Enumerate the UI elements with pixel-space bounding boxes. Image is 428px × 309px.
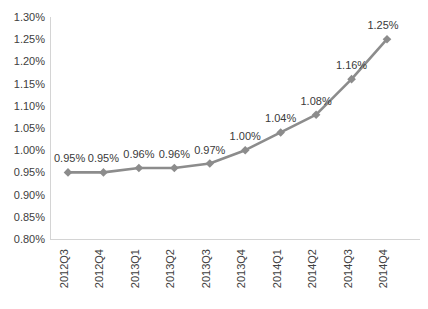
- y-axis-tick-label: 1.30%: [14, 11, 45, 23]
- x-axis-tick-label: 2014Q4: [377, 249, 389, 288]
- x-axis-tick-label: 2013Q1: [129, 249, 141, 288]
- data-point-label: 1.25%: [367, 19, 398, 31]
- data-point-label: 0.96%: [159, 148, 190, 160]
- x-axis-tick-label: 2013Q3: [200, 249, 212, 288]
- y-axis-tick-label: 1.10%: [14, 100, 45, 112]
- y-axis-tick-label: 1.15%: [14, 78, 45, 90]
- x-axis-tick-label: 2012Q3: [58, 249, 70, 288]
- y-axis-tick-label: 0.90%: [14, 189, 45, 201]
- x-axis-tick-label: 2013Q2: [164, 249, 176, 288]
- data-point-label: 0.96%: [123, 148, 154, 160]
- x-axis-tick-label: 2013Q4: [235, 249, 247, 288]
- data-point-label: 1.04%: [265, 112, 296, 124]
- y-axis-tick-label: 1.00%: [14, 144, 45, 156]
- line-chart: 1.30%1.25%1.20%1.15%1.10%1.05%1.00%0.95%…: [0, 0, 428, 309]
- y-axis-tick-label: 0.85%: [14, 211, 45, 223]
- y-axis-tick-label: 1.20%: [14, 55, 45, 67]
- data-point-label: 1.00%: [230, 130, 261, 142]
- x-axis-tick-label: 2012Q4: [93, 249, 105, 288]
- data-point-label: 1.08%: [301, 95, 332, 107]
- x-axis-tick-label: 2014Q1: [271, 249, 283, 288]
- x-axis-tick-label: 2014Q2: [306, 249, 318, 288]
- y-axis-tick-label: 0.95%: [14, 166, 45, 178]
- data-point-label: 0.95%: [88, 152, 119, 164]
- y-axis-tick-label: 0.80%: [14, 233, 45, 245]
- x-axis-tick-label: 2014Q3: [342, 249, 354, 288]
- data-point-label: 0.95%: [54, 152, 85, 164]
- chart-canvas: 1.30%1.25%1.20%1.15%1.10%1.05%1.00%0.95%…: [0, 0, 428, 309]
- y-axis-tick-label: 1.25%: [14, 33, 45, 45]
- data-point-label: 0.97%: [194, 144, 225, 156]
- data-point-label: 1.16%: [336, 59, 367, 71]
- y-axis-tick-label: 1.05%: [14, 122, 45, 134]
